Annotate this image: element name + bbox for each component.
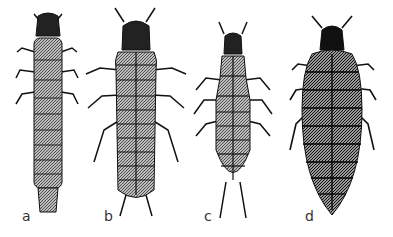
larva-b bbox=[86, 8, 186, 216]
panel-label-c: c bbox=[204, 208, 212, 224]
panel-label-d: d bbox=[305, 208, 314, 224]
larva-d bbox=[290, 16, 376, 215]
panel-label-a: a bbox=[22, 208, 31, 224]
larvae-illustration bbox=[0, 0, 393, 237]
larva-c bbox=[194, 22, 272, 218]
larva-a bbox=[16, 13, 78, 212]
larvae-figure: a b c d bbox=[0, 0, 393, 237]
panel-label-b: b bbox=[104, 208, 113, 224]
